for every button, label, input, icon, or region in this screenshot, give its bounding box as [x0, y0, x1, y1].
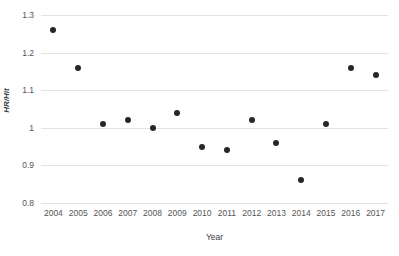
- y-axis-tick-labels: 0.80.911.11.21.3: [0, 15, 38, 203]
- chart-title: [30, 0, 370, 4]
- data-point[interactable]: [273, 140, 279, 146]
- gridline: [41, 90, 388, 91]
- y-axis-tick-label: 1.1: [0, 86, 34, 94]
- gridline: [41, 53, 388, 54]
- x-axis-tick-label: 2017: [359, 208, 393, 218]
- data-point[interactable]: [348, 65, 354, 71]
- gridline: [41, 165, 388, 166]
- y-axis-tick-label: 0.9: [0, 161, 34, 169]
- scatter-chart: HR/Hit 0.80.911.11.21.3 2004200520062007…: [0, 0, 399, 256]
- data-point[interactable]: [125, 117, 131, 123]
- gridline: [41, 203, 388, 204]
- data-point[interactable]: [50, 27, 56, 33]
- data-point[interactable]: [75, 65, 81, 71]
- x-axis-title: Year: [41, 232, 388, 242]
- data-point[interactable]: [323, 121, 329, 127]
- gridline: [41, 15, 388, 16]
- data-point[interactable]: [298, 177, 304, 183]
- data-point[interactable]: [100, 121, 106, 127]
- y-axis-tick-label: 1: [0, 124, 34, 132]
- data-point[interactable]: [373, 72, 379, 78]
- data-point[interactable]: [249, 117, 255, 123]
- data-point[interactable]: [224, 147, 230, 153]
- y-axis-tick-label: 1.3: [0, 11, 34, 19]
- y-axis-tick-label: 1.2: [0, 49, 34, 57]
- y-axis-tick-label: 0.8: [0, 199, 34, 207]
- plot-area: [41, 15, 388, 203]
- data-point[interactable]: [174, 110, 180, 116]
- x-axis-tick-labels: 2004200520062007200820092010201120122013…: [41, 208, 388, 220]
- gridline: [41, 128, 388, 129]
- data-point[interactable]: [150, 125, 156, 131]
- data-point[interactable]: [199, 144, 205, 150]
